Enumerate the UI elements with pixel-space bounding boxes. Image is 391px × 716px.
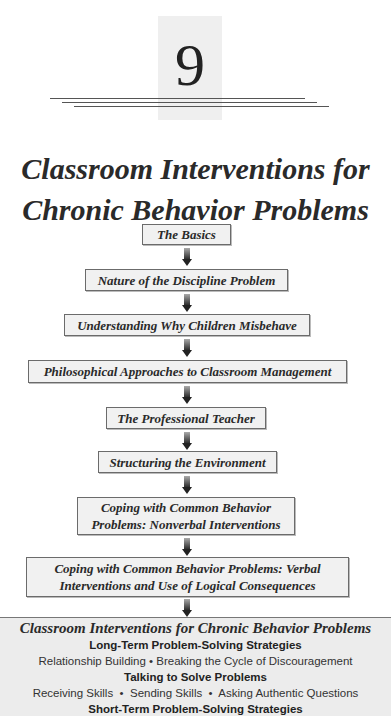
down-arrow-icon xyxy=(183,294,191,312)
flow-box-label: Nature of the Discipline Problem xyxy=(98,272,276,289)
flow-box-nature-of-discipline-problem: Nature of the Discipline Problem xyxy=(85,269,288,291)
chapter-title-line-1: Classroom Interventions for xyxy=(0,148,391,189)
flow-box-nonverbal-interventions: Coping with Common Behavior Problems: No… xyxy=(77,497,295,535)
flow-box-philosophical-approaches: Philosophical Approaches to Classroom Ma… xyxy=(28,360,347,383)
flow-box-label-line-2: Interventions and Use of Logical Consequ… xyxy=(59,577,315,594)
flow-box-verbal-interventions: Coping with Common Behavior Problems: Ve… xyxy=(26,557,349,597)
flow-box-label-line-1: Coping with Common Behavior xyxy=(101,499,271,516)
flow-box-label-line-2: Problems: Nonverbal Interventions xyxy=(91,516,280,533)
down-arrow-icon xyxy=(183,432,191,450)
flow-box-label: The Basics xyxy=(157,226,216,243)
down-arrow-icon xyxy=(183,248,191,266)
section-items-talking: Receiving Skills • Sending Skills • Aski… xyxy=(0,685,391,701)
down-arrow-icon xyxy=(183,538,191,556)
chapter-title: Classroom Interventions for Chronic Beha… xyxy=(0,148,391,230)
section-heading-short-term: Short-Term Problem-Solving Strategies xyxy=(0,701,391,716)
current-chapter-panel: Classroom Interventions for Chronic Beha… xyxy=(0,617,391,716)
decorative-rule-3 xyxy=(74,106,329,107)
current-chapter-title: Classroom Interventions for Chronic Beha… xyxy=(0,620,391,637)
flow-box-professional-teacher: The Professional Teacher xyxy=(106,407,266,429)
down-arrow-icon xyxy=(183,476,191,494)
flow-box-label: The Professional Teacher xyxy=(117,410,254,427)
flow-box-label: Philosophical Approaches to Classroom Ma… xyxy=(44,363,332,380)
down-arrow-icon xyxy=(183,339,191,357)
flow-box-label: Understanding Why Children Misbehave xyxy=(77,317,297,334)
flow-box-label: Structuring the Environment xyxy=(109,454,265,471)
flow-box-understanding-misbehavior: Understanding Why Children Misbehave xyxy=(64,314,310,336)
section-heading-long-term: Long-Term Problem-Solving Strategies xyxy=(0,637,391,653)
down-arrow-icon xyxy=(183,386,191,404)
section-heading-talking: Talking to Solve Problems xyxy=(0,669,391,685)
decorative-rule-2 xyxy=(62,102,317,103)
flow-box-the-basics: The Basics xyxy=(142,224,231,245)
flow-box-structuring-environment: Structuring the Environment xyxy=(98,451,277,473)
flow-box-label-line-1: Coping with Common Behavior Problems: Ve… xyxy=(54,560,320,577)
down-arrow-icon xyxy=(183,599,191,617)
decorative-rule-1 xyxy=(50,98,305,99)
chapter-number: 9 xyxy=(158,30,222,100)
section-items-long-term: Relationship Building • Breaking the Cyc… xyxy=(0,653,391,669)
